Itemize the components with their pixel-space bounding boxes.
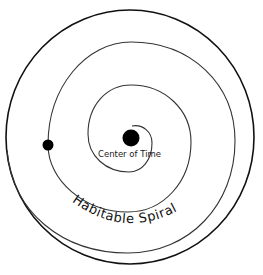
habitable-spiral-diagram: Center of Time Habitable Spiral xyxy=(0,0,263,275)
habitable-spiral-label-text: Habitable Spiral xyxy=(70,192,179,227)
center-of-time-label: Center of Time xyxy=(98,149,161,159)
orbiting-body xyxy=(43,140,54,151)
habitable-spiral-label: Habitable Spiral xyxy=(70,192,179,227)
center-of-time-body xyxy=(123,130,140,147)
